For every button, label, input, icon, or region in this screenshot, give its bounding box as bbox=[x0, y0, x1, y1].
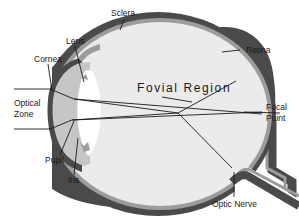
sclera-label: Sclera bbox=[111, 8, 135, 18]
fovial-region-title: Fovial Region bbox=[137, 81, 231, 95]
optical-zone-label-line1: Optical bbox=[14, 98, 41, 108]
focal-point-label-line2: Point bbox=[266, 113, 286, 123]
pupil-label: Pupil bbox=[45, 155, 64, 165]
retina-label: Retina bbox=[246, 45, 271, 55]
optic-nerve-label: Optic Nerve bbox=[212, 199, 257, 209]
iris-label: Iris bbox=[68, 175, 79, 185]
lens-label: Lens bbox=[66, 36, 84, 46]
cornea-label: Cornea bbox=[34, 54, 62, 64]
focal-point-label-line1: Focal bbox=[266, 102, 287, 112]
optical-zone-label-line2: Zone bbox=[14, 109, 34, 119]
eye-diagram: Fovial Region Sclera Lens Cornea Retina … bbox=[0, 0, 299, 220]
